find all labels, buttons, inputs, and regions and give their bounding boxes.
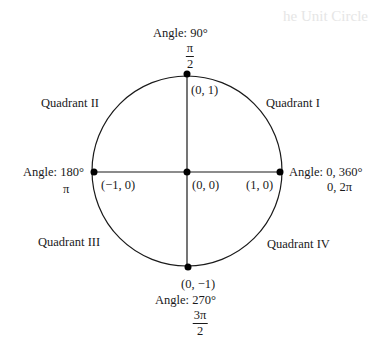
radian-3pi-over-2: 3π 2 xyxy=(193,309,208,338)
coord-right-label: (1, 0) xyxy=(246,178,273,192)
point-left-dot xyxy=(91,169,98,176)
radian-pi-over-2: π 2 xyxy=(186,42,194,71)
quadrant-3-label: Quadrant III xyxy=(38,235,100,249)
radian-pi-label: π xyxy=(63,182,69,196)
point-bottom-dot xyxy=(185,264,192,271)
point-top-dot xyxy=(184,71,191,78)
coord-top-label: (0, 1) xyxy=(191,83,218,97)
angle-180-label: Angle: 180° xyxy=(23,165,84,179)
quadrant-4-label: Quadrant IV xyxy=(267,237,330,251)
quadrant-1-label: Quadrant I xyxy=(266,96,320,110)
coord-left-label: (−1, 0) xyxy=(101,178,135,192)
radian-numerator: π xyxy=(186,42,194,57)
radian-0-2pi-label: 0, 2π xyxy=(327,180,352,194)
radian-numerator: 3π xyxy=(193,309,208,324)
radian-denominator: 2 xyxy=(197,324,203,338)
angle-0-360-label: Angle: 0, 360° xyxy=(289,165,362,179)
coord-bottom-label: (0, −1) xyxy=(181,277,215,291)
angle-90-label: Angle: 90° xyxy=(153,26,208,40)
coord-origin-label: (0, 0) xyxy=(192,178,219,192)
angle-270-label: Angle: 270° xyxy=(155,293,216,307)
quadrant-2-label: Quadrant II xyxy=(41,96,99,110)
point-right-dot xyxy=(277,169,284,176)
radian-denominator: 2 xyxy=(187,57,193,71)
origin-dot xyxy=(184,169,191,176)
